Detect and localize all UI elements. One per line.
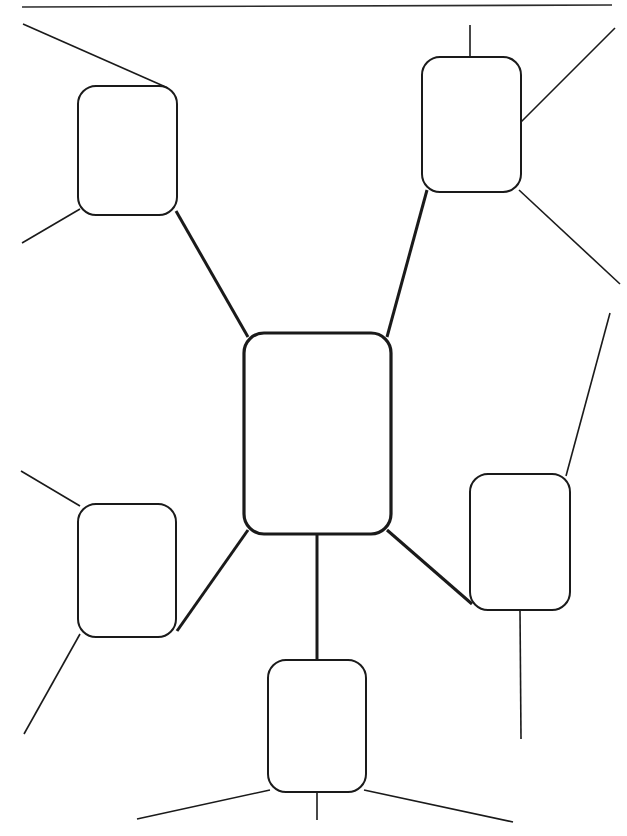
leaf-left-up <box>21 471 80 506</box>
central-to-right <box>387 530 472 604</box>
central-to-left <box>177 530 248 631</box>
central-to-top-left <box>176 211 248 337</box>
leaf-bottom-se <box>364 790 513 822</box>
leaf-bottom-sw <box>137 790 270 819</box>
leaf-top-right-se <box>519 190 620 284</box>
leaf-left-down <box>24 634 80 734</box>
top-horizontal-rule <box>22 5 612 7</box>
branch-node-right[interactable] <box>470 474 570 610</box>
central-node[interactable] <box>244 333 391 534</box>
leaf-top-right-ne <box>520 28 615 123</box>
central-to-top-right <box>387 190 427 337</box>
concept-map-canvas <box>0 0 627 836</box>
branch-node-left[interactable] <box>78 504 176 637</box>
leaf-top-left-up <box>23 24 168 88</box>
leaf-right-down <box>520 610 521 739</box>
worksheet-page <box>0 0 627 836</box>
top-horizontal-rule <box>22 5 612 7</box>
branch-node-top-right[interactable] <box>422 57 521 192</box>
central-node-group <box>244 333 391 534</box>
branch-node-top-left[interactable] <box>78 86 177 215</box>
branch-node-bottom[interactable] <box>268 660 366 792</box>
leaf-right-ne <box>566 313 610 476</box>
leaf-top-left-down <box>22 209 80 243</box>
